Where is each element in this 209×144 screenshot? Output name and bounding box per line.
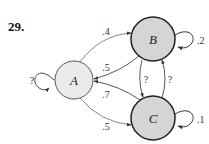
edge-label-a-c: .5: [102, 121, 110, 132]
edge-c-to-b: [162, 60, 165, 98]
self-loop-a: [35, 73, 54, 90]
edge-label-b-a: .5: [102, 62, 110, 73]
node-c-label: C: [149, 111, 158, 126]
node-c: C: [131, 96, 175, 140]
self-loop-b: [175, 32, 193, 48]
edge-label-b-c: ?: [144, 74, 149, 85]
edge-label-b-b: .2: [197, 35, 205, 46]
edge-label-c-c: .1: [197, 114, 205, 125]
edge-a-to-b: [80, 33, 131, 62]
edge-label-c-b: ?: [168, 74, 173, 85]
node-a-label: A: [69, 73, 78, 88]
edge-b-to-c: [140, 60, 143, 97]
edge-label-a-b: .4: [102, 26, 110, 37]
edge-label-c-a: .7: [102, 89, 110, 100]
node-b-label: B: [149, 32, 157, 47]
edge-b-to-a: [94, 56, 139, 79]
edge-c-to-a: [94, 81, 140, 100]
node-a: A: [55, 61, 93, 99]
self-loop-c: [175, 111, 193, 127]
state-diagram: A B C ? .4 .5 .5 .2 ? .7 ? .1: [0, 0, 209, 144]
node-b: B: [131, 17, 175, 61]
edge-label-a-a: ?: [30, 75, 35, 86]
